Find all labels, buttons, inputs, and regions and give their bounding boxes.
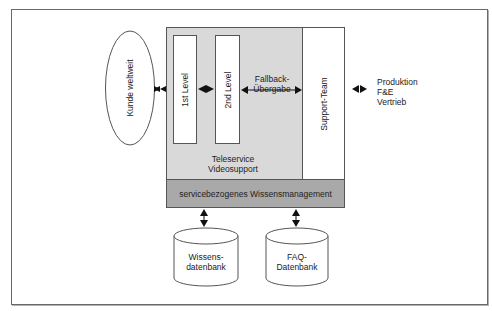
knowledge-db-line2: datenbank (174, 262, 238, 272)
arrow-first-second-level (198, 85, 214, 93)
arrow-support-external (352, 85, 367, 93)
knowledge-database-label: Wissens- datenbank (174, 252, 238, 272)
knowledge-db-line1: Wissens- (174, 252, 238, 262)
arrow-fallback (241, 86, 302, 94)
arrow-km-knowledge-db (200, 209, 208, 227)
arrow-km-faq-db (292, 209, 300, 227)
faq-db-line1: FAQ- (266, 252, 328, 262)
arrow-customer-first-level (154, 86, 166, 92)
faq-db-line2: Datenbank (266, 262, 328, 272)
diagram-connectors (0, 0, 492, 311)
faq-database-label: FAQ- Datenbank (266, 252, 328, 272)
